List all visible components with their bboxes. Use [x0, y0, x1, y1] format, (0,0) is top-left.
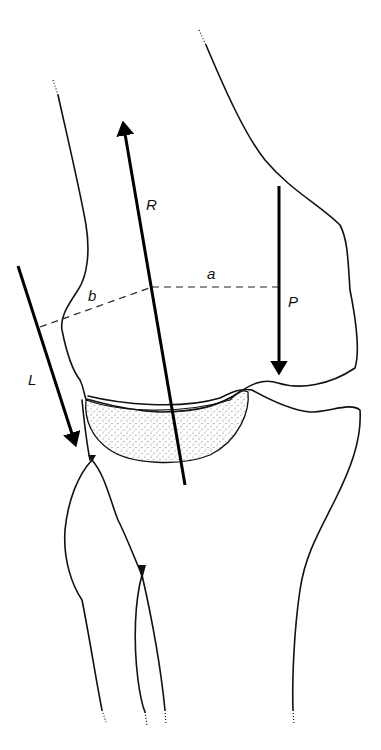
- label-L: L: [28, 371, 36, 388]
- vector-L-arrow: [18, 266, 74, 440]
- label-a: a: [207, 265, 215, 282]
- meniscus: [86, 391, 249, 463]
- label-b: b: [88, 287, 96, 304]
- fibula: [65, 455, 166, 725]
- knee-diagram: R P L a b: [0, 0, 381, 750]
- femur: [53, 30, 357, 412]
- label-P: P: [288, 293, 298, 310]
- fibula-outline: [65, 460, 102, 710]
- femur-posterior-outline: [58, 45, 357, 412]
- label-R: R: [146, 196, 157, 213]
